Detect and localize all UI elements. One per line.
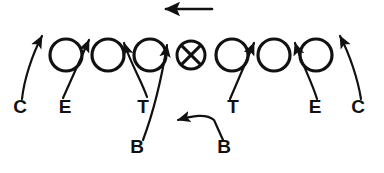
player-circle-ol-6 [258, 39, 290, 71]
player-circle-ol-3 [134, 39, 166, 71]
route-arrow-cornerback-left-icon [22, 36, 42, 99]
label-linebacker-left: B [130, 136, 144, 157]
label-tackle-left: T [137, 96, 149, 117]
play-diagram: C E T T E C B B [0, 0, 384, 173]
player-circle-ol-2 [92, 39, 124, 71]
route-arrow-cornerback-right-icon [340, 36, 361, 99]
label-cornerback-left: C [13, 96, 27, 117]
play-diagram-canvas: C E T T E C B B [0, 0, 384, 173]
label-tackle-right: T [227, 96, 239, 117]
route-arrow-end-left-icon [63, 40, 89, 98]
label-linebacker-right: B [217, 136, 231, 157]
label-end-left: E [59, 96, 72, 117]
label-end-right: E [309, 96, 322, 117]
label-cornerback-right: C [351, 96, 365, 117]
route-arrow-linebacker-left-icon [143, 45, 167, 140]
center-ball-icon [177, 41, 205, 69]
